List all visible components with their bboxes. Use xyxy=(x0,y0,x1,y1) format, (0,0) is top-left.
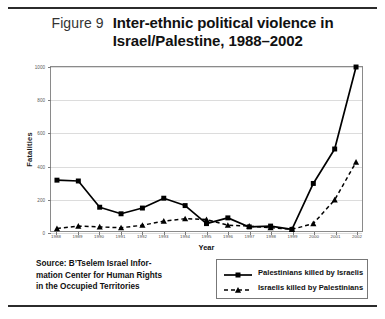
x-tick-label: 1995 xyxy=(202,234,212,239)
top-divider-rule xyxy=(8,7,377,9)
data-point-marker-square xyxy=(54,178,59,183)
x-tick-label: 1993 xyxy=(159,234,169,239)
x-axis-title: Year xyxy=(50,243,363,252)
data-point-marker-square xyxy=(236,272,241,277)
chart-legend: Palestinians killed by IsraelisIsraelis … xyxy=(216,259,368,299)
legend-item: Israelis killed by Palestinians xyxy=(223,280,361,295)
legend-key-triangle-icon xyxy=(223,282,253,294)
source-line-2: mation Center for Human Rights xyxy=(36,270,196,282)
figure-title-block: Figure 9 Inter-ethnic political violence… xyxy=(0,14,385,49)
x-tick-label: 1999 xyxy=(288,234,298,239)
data-point-marker-square xyxy=(354,65,359,70)
x-tick-label: 1989 xyxy=(73,234,83,239)
source-note: Source: B’Tselem Israel Infor- mation Ce… xyxy=(36,258,196,293)
y-tick-label: 1000 xyxy=(5,65,45,70)
figure-number-label: Figure 9 xyxy=(52,14,104,31)
data-point-marker-square xyxy=(332,147,337,152)
x-tick-label: 1992 xyxy=(137,234,147,239)
x-tick-label: 1990 xyxy=(94,234,104,239)
plot-area: 02004006008001000 xyxy=(50,66,363,232)
x-tick-label: 1994 xyxy=(180,234,190,239)
series-layer xyxy=(51,67,362,231)
figure-title: Inter-ethnic political violence in Israe… xyxy=(113,14,334,49)
figure-container: Figure 9 Inter-ethnic political violence… xyxy=(0,0,385,319)
figure-title-line-1: Inter-ethnic political violence in xyxy=(113,14,334,32)
y-tick-label: 800 xyxy=(5,98,45,103)
bottom-divider-rule xyxy=(8,305,377,307)
legend-key-square-icon xyxy=(223,267,253,279)
data-point-marker-square xyxy=(76,179,81,184)
x-tick-label: 2001 xyxy=(331,234,341,239)
y-tick-label: 400 xyxy=(5,164,45,169)
x-tick-label: 2002 xyxy=(352,234,362,239)
y-tick-label: 200 xyxy=(5,197,45,202)
x-tick-label: 1997 xyxy=(245,234,255,239)
series-2 xyxy=(54,159,359,232)
legend-label: Israelis killed by Palestinians xyxy=(258,283,363,292)
data-point-marker-square xyxy=(161,196,166,201)
y-tick-label: 600 xyxy=(5,131,45,136)
figure-title-line-2: Israel/Palestine, 1988–2002 xyxy=(113,32,334,50)
legend-item: Palestinians killed by Israelis xyxy=(223,265,361,280)
data-point-marker-square xyxy=(140,206,145,211)
x-tick-label: 1996 xyxy=(223,234,233,239)
data-point-marker-triangle xyxy=(353,159,359,165)
x-tick-label: 1991 xyxy=(116,234,126,239)
source-line-3: in the Occupied Territories xyxy=(36,281,196,293)
data-point-marker-triangle xyxy=(332,197,338,203)
legend-label: Palestinians killed by Israelis xyxy=(258,268,363,277)
data-point-marker-square xyxy=(225,215,230,220)
y-axis-title: Fatalities xyxy=(23,66,35,232)
data-point-marker-square xyxy=(119,211,124,216)
x-tick-label: 2000 xyxy=(309,234,319,239)
series-1 xyxy=(54,65,358,232)
y-tick-label: 0 xyxy=(5,231,45,236)
data-point-marker-square xyxy=(97,205,102,210)
source-line-1: Source: B’Tselem Israel Infor- xyxy=(36,258,196,270)
y-axis-title-text: Fatalities xyxy=(25,132,34,167)
data-point-marker-triangle xyxy=(310,221,316,227)
x-tick-label: 1998 xyxy=(266,234,276,239)
data-point-marker-square xyxy=(311,181,316,186)
data-point-marker-square xyxy=(183,203,188,208)
x-tick-label: 1988 xyxy=(51,234,61,239)
